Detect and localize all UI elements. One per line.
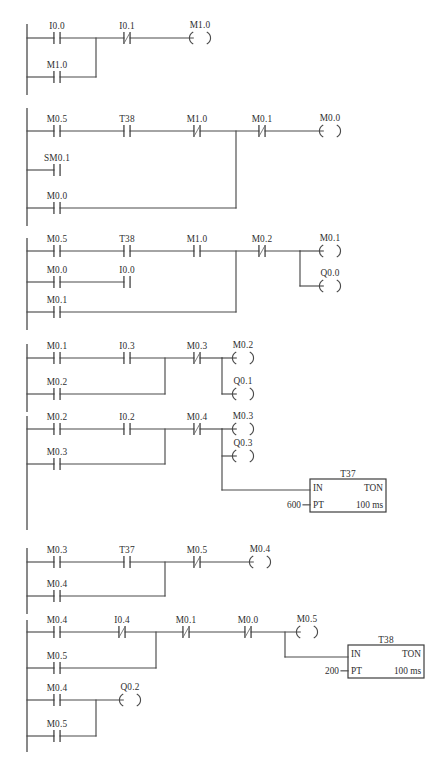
coil-arc-right	[250, 388, 254, 400]
contact-no[interactable]: M0.2	[47, 377, 68, 400]
contact-label: I0.0	[49, 21, 65, 31]
contact-nc[interactable]: I0.4	[114, 615, 130, 638]
coil[interactable]: M1.0	[189, 20, 210, 44]
network-4: M0.2M0.1I0.3M0.3M0.2Q0.1	[27, 340, 254, 400]
contact-label: M0.2	[252, 234, 273, 244]
contact-no[interactable]: M0.4	[47, 683, 68, 706]
coil-label: Q0.1	[233, 376, 252, 386]
coil[interactable]: M0.2	[232, 340, 253, 364]
contact-no[interactable]: T38	[119, 234, 135, 257]
contact-no[interactable]: M0.4	[47, 579, 68, 602]
contact-no[interactable]: T37	[119, 545, 135, 568]
rung: M0.0	[27, 191, 236, 214]
coil[interactable]: Q0.2	[119, 682, 140, 706]
contact-label: M0.4	[187, 412, 208, 422]
coil[interactable]: M0.3	[232, 411, 253, 435]
contact-no[interactable]: M0.5	[47, 651, 68, 674]
contact-label: T38	[119, 234, 135, 244]
timer-timebase-label: 100 ms	[356, 500, 384, 510]
contact-nc[interactable]: M0.1	[252, 114, 273, 137]
contact-label: I0.2	[119, 412, 135, 422]
contact-nc[interactable]: M0.5	[187, 545, 208, 568]
coil[interactable]: Q0.3	[232, 438, 253, 462]
coil[interactable]: M0.4	[249, 544, 270, 568]
contact-no[interactable]: M0.5	[47, 719, 68, 742]
timer-pt-label: PT	[313, 500, 324, 510]
timer-pt-value: 600	[287, 500, 301, 510]
contact-nc[interactable]: M0.4	[187, 412, 208, 435]
contact-nc[interactable]: M0.1	[176, 615, 197, 638]
contact-slash	[119, 627, 124, 637]
coil-arc-right	[314, 626, 318, 638]
rung: M0.3	[27, 447, 165, 470]
coil[interactable]: Q0.0	[319, 268, 340, 292]
contact-label: M0.0	[47, 191, 68, 201]
coil-arc-right	[137, 694, 141, 706]
contact-label: M1.0	[187, 114, 208, 124]
coil[interactable]: M0.0	[319, 113, 340, 137]
contact-nc[interactable]: I0.1	[119, 21, 135, 44]
rung: M0.2M0.1I0.3M0.3	[27, 340, 254, 364]
timer-box[interactable]: T38INTONPT100 ms200	[285, 635, 424, 679]
rung: M1.0I0.0I0.1	[27, 20, 211, 44]
contact-label: M0.4	[47, 615, 68, 625]
coil-arc-right	[250, 352, 254, 364]
coil[interactable]: M0.1	[319, 233, 340, 257]
contact-no[interactable]: I0.0	[119, 265, 135, 288]
coil-arc-right	[250, 423, 254, 435]
contact-slash	[245, 627, 250, 637]
contact-slash	[194, 353, 199, 363]
rung-group: M1.0I0.0I0.1M1.0M0.0M0.5T38M1.0M0.1SM0.1…	[27, 20, 424, 742]
contact-nc[interactable]: M0.0	[238, 615, 259, 638]
timer-timebase-label: 100 ms	[394, 666, 422, 676]
contact-no[interactable]: I0.0	[49, 21, 65, 44]
contact-nc[interactable]: M0.3	[187, 341, 208, 364]
coil-arc-right	[267, 556, 271, 568]
contact-no[interactable]: M0.5	[47, 234, 68, 257]
rung: M0.4	[27, 579, 165, 602]
contact-no[interactable]: M1.0	[47, 60, 68, 83]
coil[interactable]: Q0.1	[232, 376, 253, 400]
timer-name-label: T37	[340, 469, 356, 479]
coil-label: M0.1	[320, 233, 341, 243]
contact-slash	[194, 126, 199, 136]
contact-label: M0.1	[176, 615, 197, 625]
contact-label: I0.4	[114, 615, 130, 625]
contact-label: M0.1	[47, 295, 68, 305]
contact-no[interactable]: M0.0	[47, 191, 68, 214]
rung: M0.3M0.2I0.2M0.4	[27, 411, 254, 435]
contact-no[interactable]: M0.5	[47, 114, 68, 137]
timer-type-label: TON	[364, 483, 383, 493]
timer-in-label: IN	[313, 483, 323, 493]
contact-no[interactable]: M1.0	[187, 234, 208, 257]
contact-no[interactable]: M0.3	[47, 447, 68, 470]
contact-label: M0.4	[47, 579, 68, 589]
contact-no[interactable]: T38	[119, 114, 135, 137]
contact-no[interactable]: I0.3	[119, 341, 135, 364]
network-8: Q0.2M0.4M0.5	[27, 682, 141, 742]
rung: M0.1M0.5T38M1.0M0.2	[27, 233, 341, 257]
contact-no[interactable]: SM0.1	[44, 153, 70, 176]
contact-no[interactable]: M0.4	[47, 615, 68, 638]
contact-label: T38	[119, 114, 135, 124]
contact-nc[interactable]: M1.0	[187, 114, 208, 137]
contact-no[interactable]: M0.1	[47, 341, 68, 364]
timer-box[interactable]: T37INTONPT100 ms600	[222, 469, 386, 513]
rung: M0.5M0.4I0.4M0.1M0.0	[27, 614, 318, 638]
contact-label: M0.5	[47, 234, 68, 244]
contact-label: M0.5	[47, 719, 68, 729]
contact-no[interactable]: M0.2	[47, 412, 68, 435]
coil-stack: Q0.3	[222, 429, 254, 490]
coil-label: M1.0	[190, 20, 211, 30]
coil-label: M0.0	[320, 113, 341, 123]
coil[interactable]: M0.5	[296, 614, 317, 638]
contact-slash	[194, 557, 199, 567]
contact-label: M0.4	[47, 683, 68, 693]
contact-no[interactable]: I0.2	[119, 412, 135, 435]
coil-arc-right	[207, 32, 211, 44]
contact-no[interactable]: M0.0	[47, 265, 68, 288]
contact-no[interactable]: M0.1	[47, 295, 68, 318]
contact-no[interactable]: M0.3	[47, 545, 68, 568]
contact-nc[interactable]: M0.2	[252, 234, 273, 257]
timer-in-label: IN	[351, 649, 361, 659]
